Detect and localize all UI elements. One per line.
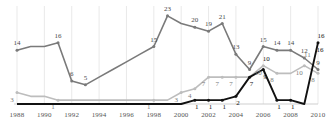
point-label: 10: [255, 70, 262, 77]
point-label: 16: [55, 33, 62, 40]
data-point: [317, 41, 320, 44]
point-label: 9: [248, 60, 252, 67]
data-point: [262, 64, 265, 67]
x-tick-1994: 1994: [92, 111, 107, 119]
point-label: 1: [277, 104, 281, 111]
point-label: 8: [270, 77, 274, 84]
data-point: [303, 64, 306, 67]
point-label: 16: [317, 47, 324, 54]
data-point: [289, 99, 292, 102]
data-point: [221, 99, 224, 102]
point-label: 7: [229, 81, 233, 88]
data-point: [221, 76, 224, 79]
point-label: 21: [219, 14, 226, 21]
x-tick-1988: 1988: [10, 111, 25, 119]
data-point: [234, 95, 237, 98]
x-tick-1992: 1992: [64, 111, 79, 119]
data-point: [289, 49, 292, 52]
data-point: [16, 49, 19, 52]
data-point: [57, 99, 60, 102]
point-label: 16: [318, 33, 325, 40]
point-label: 7: [215, 81, 219, 88]
point-label: 5: [84, 75, 88, 82]
point-label: 14: [14, 40, 21, 47]
x-tick-2002: 2002: [201, 111, 216, 119]
data-point: [207, 30, 210, 33]
data-point: [193, 99, 196, 102]
point-label: 3: [174, 97, 178, 104]
point-label: 7: [202, 81, 206, 88]
x-tick-1990: 1990: [37, 111, 52, 119]
point-label: 11: [304, 52, 311, 59]
line-chart: 1988199019921994199619982000200220042006…: [0, 0, 326, 129]
point-label: 7: [250, 81, 254, 88]
point-label: 15: [150, 37, 157, 44]
data-point: [317, 68, 320, 71]
point-label: 3: [10, 97, 14, 104]
point-label: 9: [264, 74, 268, 81]
data-point: [16, 91, 19, 94]
data-point: [221, 22, 224, 25]
point-label: 9: [316, 60, 320, 67]
point-label: 1: [51, 104, 55, 111]
series-layer: [16, 14, 320, 104]
point-label: 10: [263, 56, 270, 63]
series-line-series-dark-gray: [17, 16, 318, 85]
point-label: 1: [222, 104, 226, 111]
data-point: [207, 99, 210, 102]
data-point: [166, 14, 169, 17]
x-tick-1998: 1998: [146, 111, 161, 119]
point-label: 1: [291, 104, 295, 111]
point-label: 10: [296, 70, 303, 77]
point-label: 4: [188, 93, 192, 100]
point-label: 1: [147, 104, 151, 111]
point-label: 14: [287, 40, 294, 47]
point-label: 8: [311, 77, 315, 84]
data-point: [207, 76, 210, 79]
x-tick-2008: 2008: [283, 111, 298, 119]
data-point: [248, 68, 251, 71]
data-point: [57, 41, 60, 44]
data-point: [248, 76, 251, 79]
data-point: [193, 87, 196, 90]
x-tick-2010: 2010: [311, 111, 326, 119]
data-point: [234, 53, 237, 56]
point-label: 13: [232, 44, 239, 51]
x-tick-2006: 2006: [256, 111, 271, 119]
point-label: 6: [70, 71, 74, 78]
data-point: [275, 99, 278, 102]
data-point: [275, 49, 278, 52]
x-tick-2004: 2004: [229, 111, 244, 119]
data-point: [70, 80, 73, 83]
x-tick-2000: 2000: [174, 111, 189, 119]
data-point: [262, 68, 265, 71]
data-point: [193, 26, 196, 29]
data-point: [84, 83, 87, 86]
data-point: [262, 45, 265, 48]
data-point: [180, 91, 183, 94]
point-label: 14: [273, 40, 280, 47]
data-point: [317, 72, 320, 75]
point-label: 1: [195, 104, 199, 111]
point-label: 2: [236, 100, 240, 107]
data-point: [152, 99, 155, 102]
data-point: [152, 45, 155, 48]
point-label: 19: [205, 21, 212, 28]
point-label: 1: [209, 104, 213, 111]
point-label: 23: [164, 6, 171, 13]
data-point: [275, 72, 278, 75]
point-label: 20: [191, 17, 198, 24]
x-tick-1996: 1996: [119, 111, 134, 119]
point-label: 15: [260, 37, 267, 44]
data-point: [234, 76, 237, 79]
